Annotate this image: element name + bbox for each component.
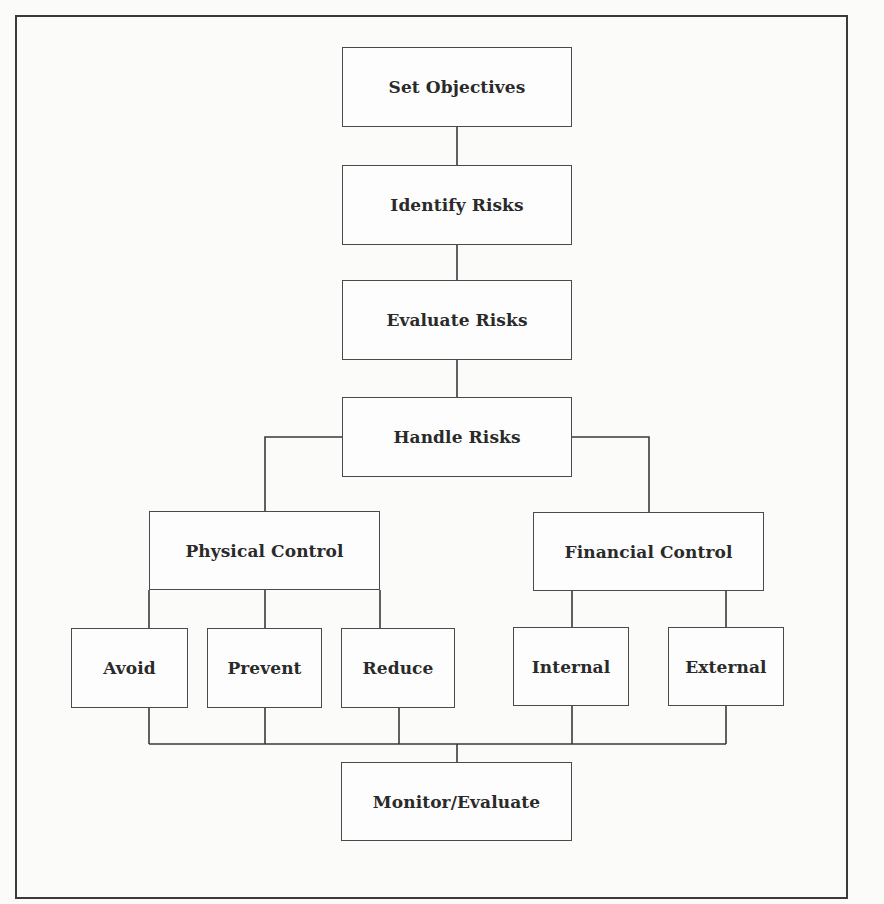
node-label: Internal bbox=[532, 657, 611, 677]
node-avoid: Avoid bbox=[71, 628, 188, 708]
node-identify-risks: Identify Risks bbox=[342, 165, 572, 245]
node-label: Monitor/Evaluate bbox=[373, 792, 540, 812]
node-external: External bbox=[668, 627, 784, 706]
node-internal: Internal bbox=[513, 627, 629, 706]
node-label: Physical Control bbox=[185, 541, 343, 561]
node-label: Prevent bbox=[227, 658, 301, 678]
node-handle-risks: Handle Risks bbox=[342, 397, 572, 477]
node-financial-control: Financial Control bbox=[533, 512, 764, 591]
node-label: Identify Risks bbox=[390, 195, 523, 215]
node-set-objectives: Set Objectives bbox=[342, 47, 572, 127]
node-label: Set Objectives bbox=[389, 77, 526, 97]
node-physical-control: Physical Control bbox=[149, 511, 380, 590]
node-label: Evaluate Risks bbox=[386, 310, 527, 330]
node-evaluate-risks: Evaluate Risks bbox=[342, 280, 572, 360]
node-label: Financial Control bbox=[565, 542, 733, 562]
node-label: Handle Risks bbox=[393, 427, 520, 447]
node-monitor-evaluate: Monitor/Evaluate bbox=[341, 762, 572, 841]
node-label: Avoid bbox=[103, 658, 156, 678]
node-prevent: Prevent bbox=[207, 628, 322, 708]
node-reduce: Reduce bbox=[341, 628, 455, 708]
node-label: External bbox=[685, 657, 766, 677]
node-label: Reduce bbox=[363, 658, 434, 678]
